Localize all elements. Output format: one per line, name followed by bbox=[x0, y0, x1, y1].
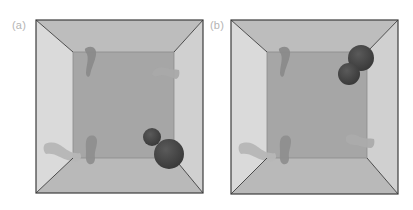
sphere bbox=[338, 63, 360, 85]
sphere bbox=[154, 139, 184, 169]
figure: (a) (b) bbox=[0, 0, 413, 210]
panel-a bbox=[36, 20, 203, 193]
box-diagrams bbox=[0, 0, 413, 210]
panel-b bbox=[231, 20, 398, 194]
sphere bbox=[143, 128, 161, 146]
